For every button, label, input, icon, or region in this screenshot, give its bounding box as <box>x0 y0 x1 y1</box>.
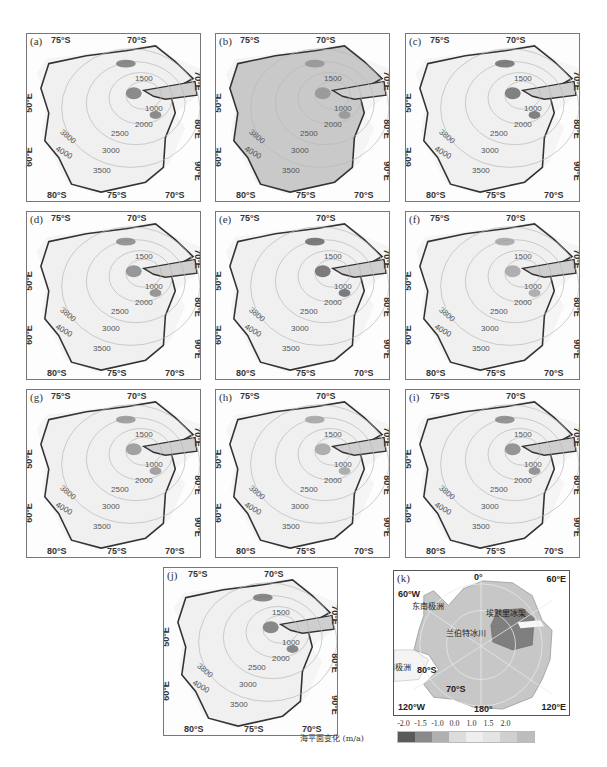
contour-label: 2500 <box>300 485 318 494</box>
contour-label: 3000 <box>102 146 120 155</box>
contour-label: 3500 <box>472 344 490 353</box>
contour-label: 3000 <box>102 502 120 511</box>
lon-tick: 60°E <box>26 325 34 345</box>
panel-label: (j) <box>167 569 177 581</box>
contour-label: 1000 <box>282 638 300 647</box>
lon-tick: 80°E <box>330 653 338 673</box>
lon-tick: 90°E <box>572 339 580 359</box>
lon-tick: 80°E <box>572 119 580 139</box>
lon-tick: 60°E <box>26 503 34 523</box>
lat-tick: 75°S <box>51 213 71 223</box>
lat-tick: 80°S <box>47 368 67 378</box>
lat-tick: 70°S <box>316 35 336 45</box>
panel-label: (a) <box>30 35 42 47</box>
lat-tick: 70°S <box>506 391 526 401</box>
lon-tick: 50°E <box>215 93 223 113</box>
lat-tick: 75°S <box>430 213 450 223</box>
lat-tick: 70°S <box>165 368 185 378</box>
contour-label: 2500 <box>111 485 129 494</box>
legend-tick: -2.0 <box>395 719 412 728</box>
lat-tick: 80°S <box>236 190 256 200</box>
lat-tick: 75°S <box>240 391 260 401</box>
panel-label: (h) <box>219 391 232 403</box>
basin-map <box>27 390 200 557</box>
panel-label: (g) <box>30 391 43 403</box>
lat-tick: 70°S <box>506 213 526 223</box>
lon-tick: 80°E <box>193 297 201 317</box>
legend-swatch <box>500 732 517 742</box>
lon-tick: 70°E <box>382 249 390 269</box>
lat-tick: 70°S <box>127 213 147 223</box>
legend-swatch <box>398 732 415 742</box>
lon-tick: 50°E <box>215 449 223 469</box>
lon-tick: 60°E <box>26 147 34 167</box>
lon-tick: 90°E <box>193 339 201 359</box>
lon-tick: 50°E <box>26 271 34 291</box>
lon-tick: 90°E <box>382 339 390 359</box>
contour-label: 2500 <box>490 307 508 316</box>
lat-tick: 75°S <box>188 569 208 579</box>
contour-label: 1500 <box>514 430 532 439</box>
panel-label: (d) <box>30 213 43 225</box>
lon-tick: 70°E <box>382 71 390 91</box>
map-panel-e: (e) 75°S 70°S 80°S 75°S 70°S 50°E 60°E 7… <box>215 211 390 380</box>
legend-tick: 1.5 <box>480 719 497 728</box>
contour-label: 1000 <box>334 282 352 291</box>
lon-tick: 50°E <box>405 93 413 113</box>
contour-label: 2500 <box>111 307 129 316</box>
panel-label: (c) <box>409 35 421 47</box>
lon-tick: 80°E <box>193 119 201 139</box>
contour-label: 3000 <box>481 502 499 511</box>
lat-tick: 70°S <box>506 35 526 45</box>
region-lambert-glacier: 兰伯特冰川 <box>446 627 486 638</box>
lon-tick: 90°E <box>193 161 201 181</box>
lat-tick: 70°S <box>544 368 564 378</box>
basin-map <box>406 212 579 379</box>
basin-map <box>27 34 200 201</box>
map-panel-j: (j) 75°S 70°S 80°S 75°S 70°S 50°E 60°E 7… <box>163 567 338 736</box>
lat-tick: 75°S <box>296 546 316 556</box>
contour-label: 1500 <box>514 252 532 261</box>
lat-tick: 75°S <box>244 724 264 734</box>
lat-tick: 75°S <box>296 368 316 378</box>
lon-tick: 50°E <box>405 449 413 469</box>
contour-label: 2000 <box>135 120 153 129</box>
basin-map <box>216 390 389 557</box>
lat-tick: 80°S <box>426 190 446 200</box>
lat-tick: 70°S <box>316 213 336 223</box>
contour-label: 3500 <box>282 344 300 353</box>
contour-label: 3000 <box>481 146 499 155</box>
legend-tick: -1.5 <box>412 719 429 728</box>
contour-label: 1000 <box>524 460 542 469</box>
lon-label-120e: 120°E <box>541 702 566 712</box>
lat-tick: 80°S <box>47 190 67 200</box>
basin-map <box>27 212 200 379</box>
lat-tick: 80°S <box>184 724 204 734</box>
lon-tick: 90°E <box>572 517 580 537</box>
lon-tick: 50°E <box>163 627 171 647</box>
lat-tick: 75°S <box>240 35 260 45</box>
contour-label: 1500 <box>324 252 342 261</box>
legend-swatch <box>432 732 449 742</box>
lon-tick: 60°E <box>163 681 171 701</box>
legend-swatch <box>449 732 466 742</box>
lat-tick: 75°S <box>107 190 127 200</box>
lat-tick: 70°S <box>544 546 564 556</box>
lon-tick: 70°E <box>572 427 580 447</box>
contour-label: 2500 <box>248 663 266 672</box>
contour-label: 2500 <box>300 307 318 316</box>
panel-label: (e) <box>219 213 231 225</box>
lat-tick: 75°S <box>430 391 450 401</box>
basin-map <box>216 212 389 379</box>
map-panel-g: (g) 75°S 70°S 80°S 75°S 70°S 50°E 60°E 7… <box>26 389 201 558</box>
antarctica-overview-map: (k) 60°W 0° 60°E 120°W 180° 120°E 80°S 7… <box>393 570 570 716</box>
contour-label: 1500 <box>135 430 153 439</box>
lat-tick: 70°S <box>165 546 185 556</box>
contour-label: 1000 <box>145 104 163 113</box>
lon-tick: 50°E <box>26 93 34 113</box>
contour-label: 3500 <box>93 344 111 353</box>
contour-label: 3000 <box>291 502 309 511</box>
contour-label: 2500 <box>111 129 129 138</box>
lon-tick: 70°E <box>193 249 201 269</box>
legend-tick: -1.0 <box>429 719 446 728</box>
